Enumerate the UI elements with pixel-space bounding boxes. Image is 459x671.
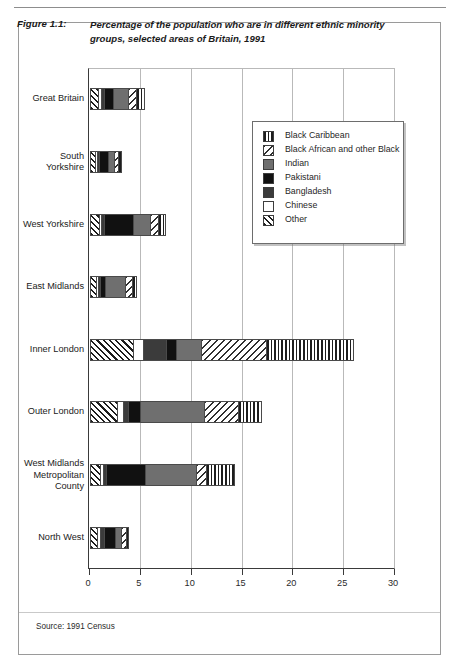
bar-segment <box>90 88 98 110</box>
bar-segment <box>125 276 132 298</box>
source-note: Source: 1991 Census <box>36 622 115 631</box>
x-axis-tick <box>89 569 90 575</box>
bar-segment <box>128 401 140 423</box>
bar-south-yorkshire <box>90 151 123 173</box>
x-axis-tick-label: 5 <box>136 578 141 588</box>
bar-segment <box>176 339 201 361</box>
source-divider <box>19 612 440 613</box>
bar-segment <box>238 401 262 423</box>
legend-label: Black Caribbean <box>285 130 350 141</box>
bar-segment <box>90 339 134 361</box>
bar-segment <box>150 214 158 236</box>
legend-item: Other <box>263 214 403 226</box>
x-axis-tick <box>140 569 141 575</box>
bar-segment <box>118 151 122 173</box>
bar-segment <box>90 527 97 549</box>
bar-segment <box>90 214 99 236</box>
x-axis-tick <box>394 569 395 575</box>
x-axis-tick-label: 0 <box>85 578 90 588</box>
bar-segment <box>140 401 204 423</box>
bar-segment <box>166 339 176 361</box>
x-axis-tick <box>292 569 293 575</box>
bar-segment <box>133 339 143 361</box>
category-label: East Midlands <box>20 281 84 293</box>
legend-swatch-icon <box>263 159 274 170</box>
chart-legend: Black CaribbeanBlack African and other B… <box>252 121 404 244</box>
x-axis-tick-label: 15 <box>235 578 245 588</box>
bar-segment <box>201 339 266 361</box>
x-axis-tick-label: 10 <box>185 578 195 588</box>
bar-segment <box>105 276 125 298</box>
legend-label: Pakistani <box>285 172 321 183</box>
bar-great-britain <box>90 88 146 110</box>
bar-west-yorkshire <box>90 214 166 236</box>
figure-number: Figure 1.1: <box>17 18 87 29</box>
bar-segment <box>104 527 115 549</box>
bar-segment <box>113 88 128 110</box>
legend-swatch-icon <box>263 173 274 184</box>
legend-item: Indian <box>263 158 403 170</box>
bar-segment <box>104 88 113 110</box>
legend-item: Black African and other Black <box>263 144 403 156</box>
x-axis-tick-label: 20 <box>286 578 296 588</box>
legend-item: Black Caribbean <box>263 130 403 142</box>
x-axis-tick <box>242 569 243 575</box>
legend-item: Bangladesh <box>263 186 403 198</box>
legend-label: Black African and other Black <box>285 144 399 155</box>
bar-segment <box>126 527 129 549</box>
legend-label: Bangladesh <box>285 186 331 197</box>
bar-segment <box>106 464 146 486</box>
bar-north-west <box>90 527 130 549</box>
legend-item: Pakistani <box>263 172 403 184</box>
legend-swatch-icon <box>263 201 274 212</box>
legend-item: Chinese <box>263 200 403 212</box>
legend-swatch-icon <box>263 215 274 226</box>
category-label: South Yorkshire <box>20 150 84 173</box>
legend-label: Indian <box>285 158 309 169</box>
bar-segment <box>196 464 206 486</box>
bar-inner-london <box>90 339 354 361</box>
bar-segment <box>90 464 100 486</box>
category-label: Outer London <box>20 407 84 419</box>
bar-segment <box>90 401 117 423</box>
bar-segment <box>266 339 353 361</box>
bar-segment <box>145 464 196 486</box>
figure-title: Percentage of the population who are in … <box>90 18 408 45</box>
bar-segment <box>136 88 145 110</box>
bar-segment <box>104 214 133 236</box>
bar-segment <box>133 214 149 236</box>
bar-segment <box>128 88 136 110</box>
legend-label: Chinese <box>285 200 317 211</box>
x-axis-tick-label: 25 <box>337 578 347 588</box>
bar-outer-london <box>90 401 263 423</box>
x-axis-tick <box>191 569 192 575</box>
legend-label: Other <box>285 214 307 225</box>
category-label: West Midlands Metropolitan County <box>20 458 84 493</box>
x-axis-tick-label: 30 <box>388 578 398 588</box>
figure-page: Figure 1.1: Percentage of the population… <box>0 0 459 671</box>
y-axis-category-labels: Great BritainSouth YorkshireWest Yorkshi… <box>20 68 84 569</box>
legend-swatch-icon <box>263 187 274 198</box>
x-axis-tick <box>343 569 344 575</box>
bar-east-midlands <box>90 276 138 298</box>
x-axis-tick-labels: 051015202530 <box>88 578 395 594</box>
legend-swatch-icon <box>263 145 274 156</box>
category-label: Inner London <box>20 344 84 356</box>
bar-segment <box>99 151 108 173</box>
category-label: North West <box>20 532 84 544</box>
category-label: Great Britain <box>20 94 84 106</box>
bar-segment <box>158 214 166 236</box>
category-label: West Yorkshire <box>20 219 84 231</box>
page-top-rule <box>14 7 446 8</box>
bar-segment <box>132 276 137 298</box>
bar-segment <box>143 339 165 361</box>
legend-swatch-icon <box>263 131 274 142</box>
bar-segment <box>204 401 238 423</box>
bar-west-midlands-metropolitan-county <box>90 464 235 486</box>
bar-segment <box>206 464 234 486</box>
